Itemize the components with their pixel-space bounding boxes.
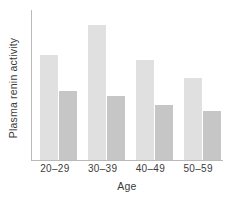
bar-group xyxy=(40,10,77,160)
bar xyxy=(107,96,125,161)
x-axis-tick-label: 40–49 xyxy=(127,163,175,174)
plot-area xyxy=(31,10,223,160)
bar xyxy=(203,111,221,161)
chart-figure: Plasma renin activity 20–2930–3940–4950–… xyxy=(0,0,239,202)
x-axis-tick-label: 30–39 xyxy=(79,163,127,174)
x-axis-tick-label: 50–59 xyxy=(174,163,222,174)
bar xyxy=(88,25,106,160)
bar-series-container xyxy=(32,10,223,160)
bar-group xyxy=(136,10,173,160)
bar xyxy=(155,105,173,161)
x-axis-label: Age xyxy=(31,180,223,192)
x-axis-tick-label: 20–29 xyxy=(31,163,79,174)
bar-group xyxy=(184,10,221,160)
y-axis-label: Plasma renin activity xyxy=(2,8,24,168)
bar xyxy=(184,78,202,161)
x-axis-tick-labels: 20–2930–3940–4950–59 xyxy=(31,163,223,177)
bar xyxy=(136,60,154,161)
bar-group xyxy=(88,10,125,160)
bar xyxy=(59,91,77,160)
x-axis-line xyxy=(31,160,223,161)
bar xyxy=(40,55,58,160)
